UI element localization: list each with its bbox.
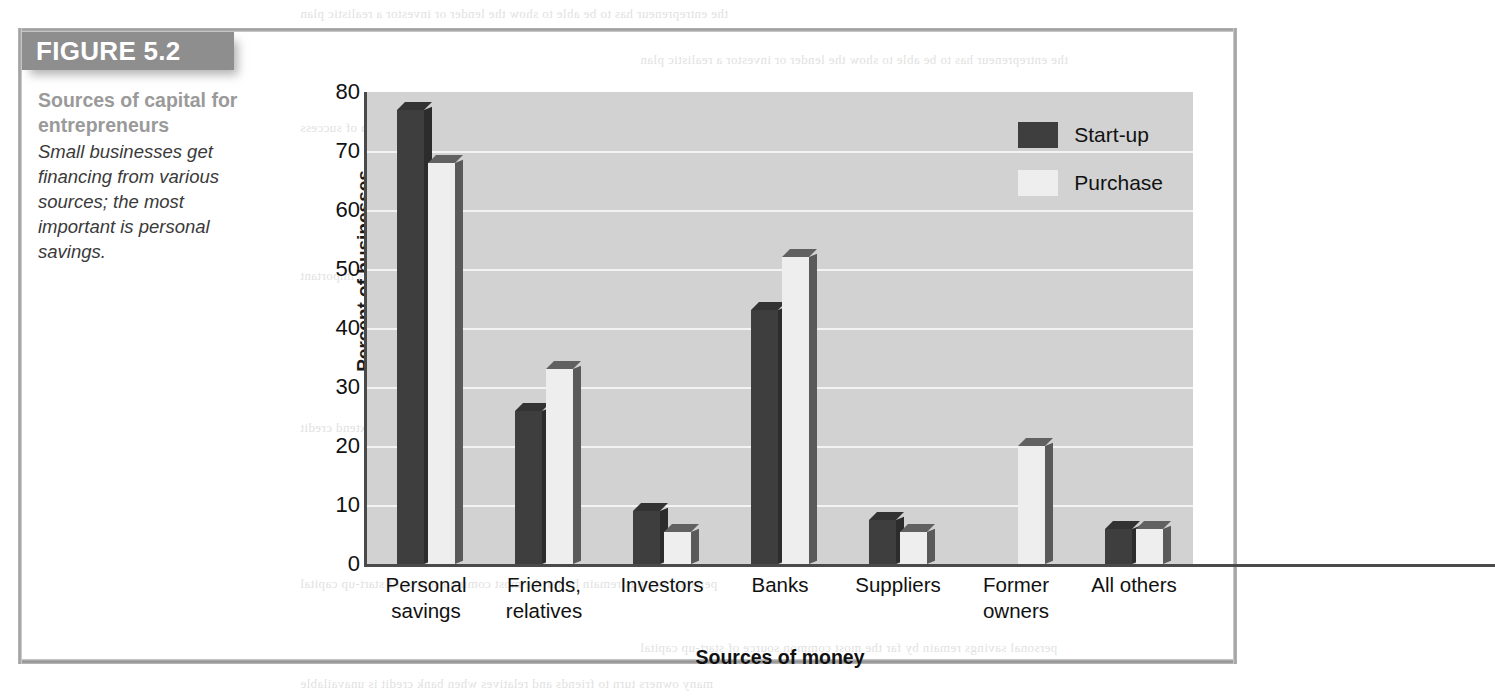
x-tick-line1: Former	[957, 572, 1075, 598]
x-tick-label-4: Suppliers	[839, 572, 957, 624]
legend-item-purchase[interactable]: Purchase	[1018, 170, 1163, 196]
bar-side	[927, 528, 935, 564]
y-axis-tick-labels: 01020304050607080	[316, 80, 360, 565]
plot-area: Start-upPurchase	[367, 92, 1193, 564]
x-tick-line1: All others	[1075, 572, 1193, 598]
bar-face	[869, 520, 896, 564]
bar-face	[546, 369, 573, 564]
legend-swatch-purchase	[1018, 170, 1058, 196]
bar-side	[1163, 525, 1171, 564]
bar-group-friends-relatives	[485, 92, 603, 564]
x-tick-label-6: All others	[1075, 572, 1193, 624]
x-tick-label-2: Investors	[603, 572, 721, 624]
x-axis-line	[364, 564, 1495, 567]
y-tick-10: 10	[336, 492, 360, 518]
caption-body: Small businesses get financing from vari…	[38, 139, 238, 264]
y-tick-20: 20	[336, 433, 360, 459]
y-tick-40: 40	[336, 315, 360, 341]
bar-group-investors	[603, 92, 721, 564]
bar-start-up-0[interactable]	[397, 110, 424, 564]
bar-side	[573, 366, 581, 564]
frame-left-border	[18, 28, 22, 664]
x-tick-line2: owners	[957, 598, 1075, 624]
figure-number-label: FIGURE 5.2	[22, 32, 234, 70]
x-tick-line2: savings	[367, 598, 485, 624]
bar-face	[751, 310, 778, 564]
bar-purchase-0[interactable]	[428, 163, 455, 564]
x-tick-line1: Personal	[367, 572, 485, 598]
y-tick-30: 30	[336, 374, 360, 400]
legend-label-purchase: Purchase	[1074, 171, 1163, 195]
bar-group-suppliers	[839, 92, 957, 564]
bar-face	[515, 411, 542, 564]
bar-purchase-6[interactable]	[1136, 529, 1163, 564]
x-tick-label-1: Friends,relatives	[485, 572, 603, 624]
bar-purchase-3[interactable]	[782, 257, 809, 564]
y-tick-80: 80	[336, 79, 360, 105]
y-tick-0: 0	[348, 551, 360, 577]
x-axis-title: Sources of money	[367, 646, 1193, 669]
bar-side	[455, 160, 463, 564]
x-tick-line1: Suppliers	[839, 572, 957, 598]
y-tick-70: 70	[336, 138, 360, 164]
bar-face	[397, 110, 424, 564]
bar-face	[900, 532, 927, 564]
bar-face	[782, 257, 809, 564]
legend-item-start-up[interactable]: Start-up	[1018, 122, 1163, 148]
chart-legend: Start-upPurchase	[1018, 122, 1163, 218]
figure-caption: Sources of capital for entrepreneurs Sma…	[38, 88, 238, 264]
y-tick-60: 60	[336, 197, 360, 223]
caption-title: Sources of capital for entrepreneurs	[38, 88, 238, 138]
figure-number-tag: FIGURE 5.2	[22, 32, 234, 70]
bar-side	[1045, 443, 1053, 564]
x-axis-tick-labels: PersonalsavingsFriends,relativesInvestor…	[367, 572, 1193, 624]
x-tick-label-5: Formerowners	[957, 572, 1075, 624]
bar-purchase-1[interactable]	[546, 369, 573, 564]
x-tick-line1: Banks	[721, 572, 839, 598]
bar-face	[1105, 529, 1132, 564]
legend-label-start-up: Start-up	[1074, 123, 1149, 147]
bar-face	[633, 511, 660, 564]
bar-purchase-4[interactable]	[900, 532, 927, 564]
x-tick-line2: relatives	[485, 598, 603, 624]
frame-right-border	[1233, 28, 1237, 664]
bar-group-banks	[721, 92, 839, 564]
bar-group-personal-savings	[367, 92, 485, 564]
bar-purchase-2[interactable]	[664, 532, 691, 564]
bar-start-up-3[interactable]	[751, 310, 778, 564]
x-tick-label-3: Banks	[721, 572, 839, 624]
bar-side	[691, 528, 699, 564]
legend-swatch-start-up	[1018, 122, 1058, 148]
bar-purchase-5[interactable]	[1018, 446, 1045, 564]
bar-start-up-2[interactable]	[633, 511, 660, 564]
x-tick-label-0: Personalsavings	[367, 572, 485, 624]
bar-chart: Percent of businesses 01020304050607080 …	[300, 80, 1220, 640]
bar-start-up-6[interactable]	[1105, 529, 1132, 564]
x-tick-line1: Investors	[603, 572, 721, 598]
bar-face	[664, 532, 691, 564]
y-tick-50: 50	[336, 256, 360, 282]
x-tick-line1: Friends,	[485, 572, 603, 598]
bar-start-up-4[interactable]	[869, 520, 896, 564]
bar-face	[428, 163, 455, 564]
bar-start-up-1[interactable]	[515, 411, 542, 564]
bar-side	[809, 254, 817, 564]
bar-face	[1018, 446, 1045, 564]
bar-face	[1136, 529, 1163, 564]
